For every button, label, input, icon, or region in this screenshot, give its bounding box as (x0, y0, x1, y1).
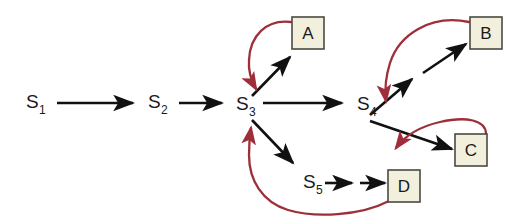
box-d-label: D (398, 177, 410, 196)
state-label-s2: S 2 (148, 91, 168, 117)
terminal-box-a: A (292, 17, 324, 49)
state-s4-base: S (357, 93, 370, 114)
diagram-canvas: S 1 S 2 S 3 S 4 S 5 A (0, 0, 516, 224)
state-s2-base: S (148, 91, 161, 112)
state-label-s4: S 4 (357, 93, 377, 119)
box-a-label: A (302, 24, 314, 43)
state-s4-subscript: 4 (370, 105, 377, 119)
terminal-boxes-group: A B C D (292, 17, 502, 202)
state-s5-base: S (303, 171, 316, 192)
forward-transitions-group (57, 44, 466, 183)
feedback-transitions-group (249, 20, 486, 214)
state-label-s5: S 5 (303, 171, 323, 197)
feedback-curve-d-to-s3 (249, 128, 389, 215)
terminal-box-c: C (455, 134, 487, 166)
feedback-curve-b-to-s4 (385, 20, 469, 101)
arrow-s3-to-box-a (252, 57, 290, 96)
box-c-label: C (465, 141, 477, 160)
state-s5-subscript: 5 (316, 183, 323, 197)
box-b-label: B (480, 24, 491, 43)
state-s3-base: S (236, 93, 249, 114)
state-label-s1: S 1 (26, 91, 46, 117)
terminal-box-d: D (388, 170, 420, 202)
terminal-box-b: B (470, 17, 502, 49)
state-s2-subscript: 2 (161, 103, 168, 117)
pathway-diagram: S 1 S 2 S 3 S 4 S 5 A (0, 0, 516, 224)
state-s1-base: S (26, 91, 39, 112)
state-s1-subscript: 1 (39, 103, 46, 117)
arrow-s3-to-s5 (252, 120, 293, 163)
state-s3-subscript: 3 (249, 105, 256, 119)
state-labels-group: S 1 S 2 S 3 S 4 S 5 (26, 91, 377, 197)
state-label-s3: S 3 (236, 93, 256, 119)
arrow-s4-to-box-b-seg2 (423, 44, 466, 73)
